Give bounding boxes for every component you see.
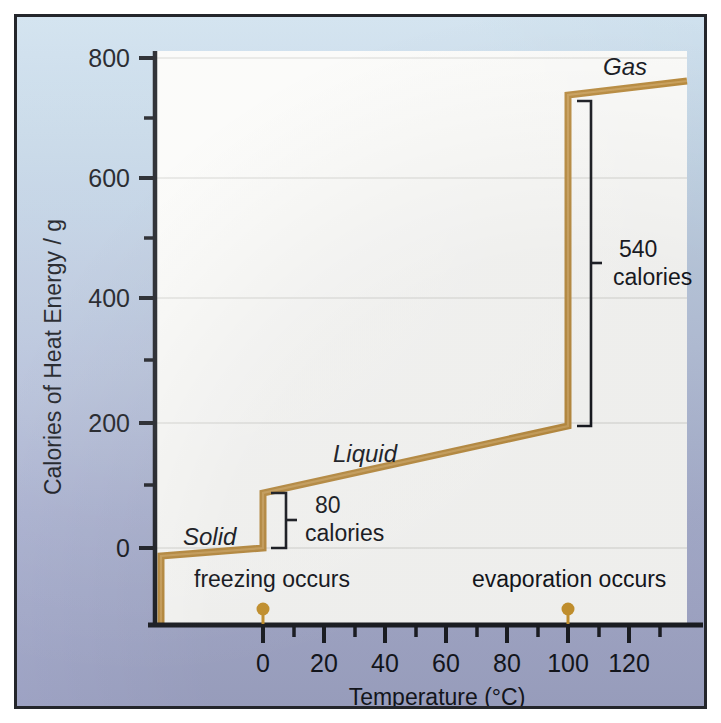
phase-label-gas: Gas	[603, 53, 647, 80]
x-tick-label-0: 0	[256, 649, 270, 677]
bracket-80-unit: calories	[305, 520, 384, 546]
y-tick-label-600: 600	[88, 164, 130, 192]
x-tick-label-20: 20	[310, 649, 338, 677]
y-axis-title: Calories of Heat Energy / g	[40, 219, 66, 495]
bracket-540-value: 540	[619, 236, 657, 262]
x-tick-label-80: 80	[493, 649, 521, 677]
phase-label-solid: Solid	[183, 523, 237, 550]
x-axis-title: Temperature (°C)	[349, 684, 526, 709]
y-tick-label-400: 400	[88, 284, 130, 312]
figure-panel: 800 600 400 200 0 Calories of Heat Energ…	[14, 14, 707, 709]
y-tick-label-800: 800	[88, 44, 130, 72]
y-tick-label-200: 200	[88, 409, 130, 437]
y-axis-major-ticks	[139, 58, 155, 548]
event-label-evaporation: evaporation occurs	[472, 566, 666, 592]
x-tick-label-60: 60	[432, 649, 460, 677]
x-tick-label-40: 40	[371, 649, 399, 677]
event-label-freezing: freezing occurs	[194, 566, 350, 592]
phase-label-liquid: Liquid	[333, 440, 398, 467]
bracket-540-unit: calories	[613, 264, 692, 290]
chart-canvas: 800 600 400 200 0 Calories of Heat Energ…	[17, 17, 707, 709]
bracket-80-value: 80	[315, 492, 341, 518]
x-tick-label-100: 100	[547, 649, 589, 677]
x-tick-label-120: 120	[608, 649, 650, 677]
y-tick-label-0: 0	[116, 534, 130, 562]
x-axis-major-ticks	[263, 625, 629, 643]
